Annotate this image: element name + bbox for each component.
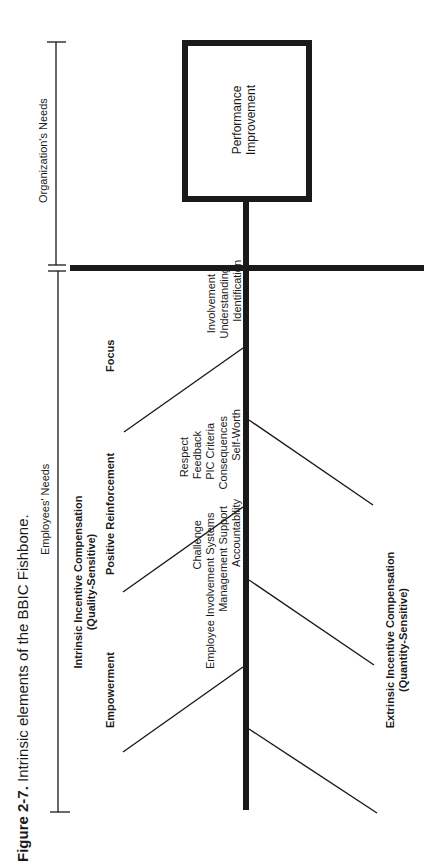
item: Accountability [230, 499, 243, 669]
item: Understanding [218, 260, 231, 350]
empowerment-items: Challenge Employee Involvement Systems M… [191, 499, 243, 669]
item: Involvement [205, 260, 218, 350]
bone-label-empowerment: Empowerment [104, 652, 117, 728]
item: Consequences [217, 409, 230, 509]
figure-caption: Figure 2-7. Intrinsic elements of the BB… [14, 514, 31, 862]
bone-label-focus: Focus [104, 340, 117, 372]
extrinsic-subtitle-line: (Quantity-Sensitive) [397, 550, 410, 730]
item: Challenge [191, 499, 204, 669]
positive-reinforcement-items: Respect Feedback PIC Criteria Consequenc… [178, 409, 243, 509]
intrinsic-subtitle-line: (Quality-Sensitive) [85, 482, 98, 682]
extrinsic-title-line: Extrinsic Incentive Compensation [384, 550, 397, 730]
bone-extrinsic-3 [249, 729, 377, 813]
item: Management Support [217, 499, 230, 669]
organization-needs-label: Organization's Needs [37, 98, 50, 203]
intrinsic-title: Intrinsic Incentive Compensation (Qualit… [72, 482, 98, 682]
bone-label-positive-reinforcement: Positive Reinforcement [104, 453, 117, 575]
head-box-text: Performance Improvement [230, 80, 258, 160]
bone-empowerment [123, 667, 243, 752]
focus-items: Involvement Understanding Identification [205, 260, 244, 350]
item: Identification [231, 260, 244, 350]
figure-title: Intrinsic elements of the BBIC Fishbone. [14, 514, 31, 782]
employees-needs-label: Employees' Needs [39, 464, 52, 555]
item: PIC Criteria [204, 409, 217, 509]
extrinsic-title: Extrinsic Incentive Compensation (Quanti… [384, 550, 410, 730]
item: Employee Involvement Systems [204, 499, 217, 669]
item: Self-Worth [230, 409, 243, 509]
bone-extrinsic-2 [249, 580, 374, 665]
head-line-2: Improvement [244, 80, 258, 160]
intrinsic-title-line: Intrinsic Incentive Compensation [72, 482, 85, 682]
bone-extrinsic-1 [249, 420, 373, 505]
head-line-1: Performance [230, 80, 244, 160]
item: Respect [178, 409, 191, 509]
figure-label: Figure 2-7. [14, 786, 31, 862]
item: Feedback [191, 409, 204, 509]
